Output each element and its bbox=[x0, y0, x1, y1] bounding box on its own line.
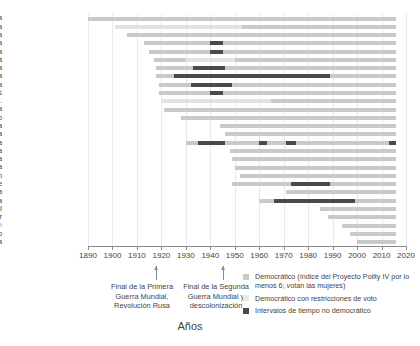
legend-item-restr: Democrático con restricciones de voto bbox=[243, 294, 419, 303]
axis-tick bbox=[112, 246, 113, 250]
axis-tick bbox=[308, 246, 309, 250]
axis-tick-label: 1960 bbox=[250, 251, 268, 260]
timeline-segment-dem bbox=[357, 240, 396, 244]
timeline-segment-dem bbox=[296, 141, 389, 145]
axis-tick-label: 2000 bbox=[348, 251, 366, 260]
timeline-segment-dem bbox=[330, 182, 396, 186]
axis-tick-label: 1890 bbox=[79, 251, 97, 260]
axis-tick bbox=[333, 246, 334, 250]
timeline-segment-nodem bbox=[210, 41, 222, 45]
axis-tick bbox=[137, 246, 138, 250]
timeline-segment-dem bbox=[225, 132, 396, 136]
timeline-segment-dem bbox=[259, 199, 274, 203]
timeline-segment-restr bbox=[186, 58, 235, 62]
timeline-segment-dem bbox=[235, 58, 396, 62]
timeline-segment-nodem bbox=[210, 50, 222, 54]
timeline-segment-dem bbox=[235, 166, 396, 170]
timeline-segment-nodem bbox=[286, 141, 296, 145]
axis-tick-label: 1900 bbox=[104, 251, 122, 260]
timeline-segment-dem bbox=[240, 174, 397, 178]
timeline-segment-dem bbox=[164, 108, 396, 112]
timeline-segment-dem bbox=[225, 141, 259, 145]
timeline-segment-nodem bbox=[259, 141, 266, 145]
timeline-segment-dem bbox=[330, 74, 396, 78]
legend-label: Democrático (índice del Proyecto Polity … bbox=[255, 272, 409, 290]
axis-tick bbox=[88, 246, 89, 250]
timeline-segment-dem bbox=[159, 91, 210, 95]
annotation-arrow-wwi bbox=[156, 266, 157, 280]
timeline-segment-dem bbox=[230, 149, 396, 153]
x-axis-title: Años bbox=[150, 320, 230, 332]
axis-tick bbox=[210, 246, 211, 250]
timeline-segment-nodem bbox=[210, 91, 222, 95]
timeline-row bbox=[0, 238, 420, 247]
timeline-segment-nodem bbox=[193, 66, 225, 70]
axis-tick-label: 2020 bbox=[397, 251, 415, 260]
chart-legend: Democrático (índice del Proyecto Polity … bbox=[243, 272, 419, 319]
timeline-segment-nodem bbox=[274, 199, 355, 203]
timeline-segment-dem bbox=[220, 124, 396, 128]
timeline-segment-nodem bbox=[291, 182, 330, 186]
timeline-segment-dem bbox=[159, 83, 191, 87]
timeline-segment-nodem bbox=[191, 83, 233, 87]
axis-tick bbox=[161, 246, 162, 250]
axis-tick bbox=[406, 246, 407, 250]
timeline-segment-dem bbox=[88, 17, 396, 21]
timeline-segment-dem bbox=[242, 25, 396, 29]
legend-item-nodem: Intervalos de tiempo no democrático bbox=[243, 306, 419, 315]
axis-tick bbox=[357, 246, 358, 250]
timeline-segment-dem bbox=[267, 141, 287, 145]
timeline-segment-dem bbox=[225, 66, 396, 70]
timeline-segment-dem bbox=[149, 50, 210, 54]
timeline-segment-dem bbox=[232, 182, 291, 186]
timeline-segment-restr bbox=[115, 25, 242, 29]
timeline-segment-dem bbox=[223, 91, 397, 95]
axis-tick bbox=[284, 246, 285, 250]
timeline-segment-dem bbox=[127, 33, 396, 37]
axis-tick-label: 1990 bbox=[324, 251, 342, 260]
axis-tick bbox=[259, 246, 260, 250]
axis-tick-label: 1980 bbox=[299, 251, 317, 260]
timeline-segment-nodem bbox=[174, 74, 331, 78]
axis-tick bbox=[235, 246, 236, 250]
axis-tick-label: 1940 bbox=[201, 251, 219, 260]
timeline-segment-dem bbox=[355, 199, 397, 203]
democracy-timeline-chart: 1890190019101920193019401950196019701980… bbox=[0, 0, 420, 346]
axis-tick-label: 1920 bbox=[152, 251, 170, 260]
timeline-segment-dem bbox=[342, 224, 396, 228]
legend-item-dem: Democrático (índice del Proyecto Polity … bbox=[243, 272, 419, 291]
timeline-segment-dem bbox=[286, 190, 396, 194]
timeline-segment-dem bbox=[156, 66, 193, 70]
timeline-segment-dem bbox=[186, 141, 198, 145]
axis-tick-label: 1950 bbox=[226, 251, 244, 260]
timeline-segment-dem bbox=[154, 58, 186, 62]
timeline-segment-dem bbox=[144, 41, 210, 45]
axis-tick-label: 1970 bbox=[275, 251, 293, 260]
timeline-segment-dem bbox=[232, 157, 396, 161]
timeline-segment-dem bbox=[223, 41, 397, 45]
timeline-segment-dem bbox=[271, 99, 396, 103]
timeline-segment-dem bbox=[156, 74, 173, 78]
timeline-segment-nodem bbox=[198, 141, 225, 145]
legend-swatch-restr bbox=[243, 295, 249, 301]
legend-label: Intervalos de tiempo no democrático bbox=[255, 306, 371, 315]
timeline-segment-dem bbox=[350, 232, 396, 236]
legend-label: Democrático con restricciones de voto bbox=[255, 294, 377, 303]
legend-swatch-nodem bbox=[243, 308, 249, 314]
axis-tick bbox=[186, 246, 187, 250]
timeline-segment-dem bbox=[181, 116, 396, 120]
timeline-segment-restr bbox=[161, 99, 271, 103]
timeline-segment-nodem bbox=[389, 141, 396, 145]
timeline-segment-dem bbox=[320, 207, 396, 211]
legend-swatch-dem bbox=[243, 274, 249, 280]
annotation-arrow-wwii bbox=[223, 266, 224, 280]
timeline-segment-dem bbox=[232, 83, 396, 87]
axis-tick-label: 1930 bbox=[177, 251, 195, 260]
timeline-segment-dem bbox=[328, 215, 396, 219]
axis-tick-label: 2010 bbox=[373, 251, 391, 260]
axis-tick-label: 1910 bbox=[128, 251, 146, 260]
timeline-segment-dem bbox=[223, 50, 397, 54]
axis-tick bbox=[382, 246, 383, 250]
